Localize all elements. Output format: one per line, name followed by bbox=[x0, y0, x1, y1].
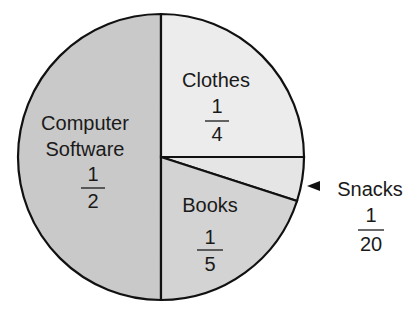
pie-chart: Computer Software 1 2 Clothes 1 4 Books … bbox=[0, 0, 417, 309]
fraction-numerator: 1 bbox=[87, 163, 98, 185]
fraction-denominator: 5 bbox=[204, 253, 215, 275]
label-clothes-name: Clothes bbox=[182, 69, 250, 91]
fraction-numerator: 1 bbox=[365, 204, 376, 226]
fraction-denominator: 2 bbox=[87, 190, 98, 212]
fraction-denominator: 4 bbox=[211, 123, 222, 145]
arrow-pointer-icon bbox=[307, 181, 320, 191]
label-snacks-name: Snacks bbox=[337, 178, 403, 200]
fraction-denominator: 20 bbox=[360, 233, 382, 255]
label-computer-software-line1: Computer bbox=[41, 112, 129, 134]
fraction-numerator: 1 bbox=[211, 95, 222, 117]
label-snacks: Snacks 1 20 bbox=[307, 178, 403, 255]
label-computer-software-line2: Software bbox=[46, 138, 125, 160]
fraction-numerator: 1 bbox=[204, 226, 215, 248]
label-books-name: Books bbox=[182, 194, 238, 216]
